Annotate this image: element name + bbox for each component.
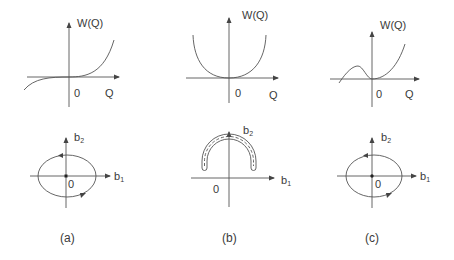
b1-axis-label: b1 bbox=[420, 170, 430, 183]
potential-plot-a: W(Q) 0 Q bbox=[24, 17, 119, 107]
q-axis-label: Q bbox=[405, 88, 414, 100]
w-axis-label: W(Q) bbox=[242, 9, 268, 21]
b2-axis-label: b2 bbox=[243, 124, 253, 137]
q-axis-label: Q bbox=[269, 89, 278, 101]
phase-plot-b: 0 b2 b1 bbox=[191, 124, 291, 207]
orbit-arrow-icon bbox=[58, 153, 63, 158]
w-axis-label: W(Q) bbox=[380, 19, 406, 31]
origin-point bbox=[370, 174, 373, 177]
orbit-arrow-icon bbox=[363, 153, 368, 158]
phase-plot-a: 0 b2 b1 bbox=[30, 131, 124, 208]
origin-label: 0 bbox=[74, 87, 80, 99]
b1-axis-label: b1 bbox=[281, 174, 291, 187]
panel-c: W(Q) 0 Q 0 b2 b1 (c) bbox=[330, 19, 430, 245]
orbit-arrow-icon bbox=[386, 193, 392, 198]
origin-label: 0 bbox=[213, 183, 219, 195]
w-axis-label: W(Q) bbox=[77, 17, 103, 29]
phase-plot-c: 0 b2 b1 bbox=[337, 131, 430, 208]
caption-b: (b) bbox=[222, 231, 237, 245]
origin-label: 0 bbox=[375, 178, 381, 190]
orbit-arrow-icon bbox=[80, 193, 86, 198]
potential-plot-b: W(Q) 0 Q bbox=[186, 9, 278, 103]
caption-c: (c) bbox=[365, 231, 379, 245]
potential-plot-c: W(Q) 0 Q bbox=[330, 19, 419, 107]
potential-curve bbox=[193, 35, 266, 78]
origin-label: 0 bbox=[235, 87, 241, 99]
b2-axis-label: b2 bbox=[381, 131, 391, 144]
panel-b: W(Q) 0 Q 0 b2 b1 (b) bbox=[186, 9, 291, 245]
origin-label: 0 bbox=[376, 88, 382, 100]
figure: W(Q) 0 Q 0 b2 b1 (a) W(Q) 0 Q bbox=[0, 0, 454, 260]
b1-axis-label: b1 bbox=[114, 170, 124, 183]
origin-label: 0 bbox=[68, 178, 74, 190]
panel-a: W(Q) 0 Q 0 b2 b1 (a) bbox=[24, 17, 124, 245]
b2-axis-label: b2 bbox=[74, 131, 84, 144]
caption-a: (a) bbox=[60, 231, 75, 245]
q-axis-label: Q bbox=[105, 87, 114, 99]
